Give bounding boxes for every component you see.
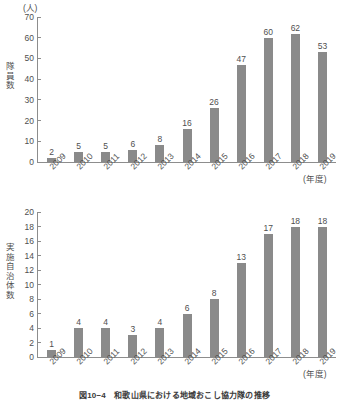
bar-value-label: 5	[76, 142, 81, 151]
bar-value-label: 3	[130, 325, 135, 334]
bar-value-label: 60	[264, 28, 273, 37]
bar-value-label: 53	[318, 42, 327, 51]
bar-value-label: 13	[236, 253, 245, 262]
bar: 18	[291, 227, 300, 358]
bar-value-label: 8	[212, 289, 217, 298]
plot-area: 0102030405060702200952010520116201282013…	[37, 17, 336, 163]
bar-value-label: 2	[49, 148, 54, 157]
bar: 18	[318, 227, 327, 358]
plot-area: 0246810121416182012009420104201132012420…	[37, 212, 336, 358]
bar: 53	[318, 52, 327, 162]
bar-value-label: 17	[264, 224, 273, 233]
bar: 60	[264, 38, 273, 162]
bar-value-label: 4	[103, 318, 108, 327]
bar-value-label: 18	[291, 217, 300, 226]
x-axis-unit-label: (年度)	[303, 367, 327, 379]
y-axis-title: 実施自治体数	[5, 243, 16, 301]
bar: 26	[210, 108, 219, 162]
figure-container: (人) 隊員数 01020304050607022009520105201162…	[0, 0, 349, 403]
bar: 47	[237, 65, 246, 162]
bar: 8	[210, 299, 219, 357]
x-axis-unit-label: (年度)	[303, 172, 327, 184]
bar-value-label: 8	[158, 135, 163, 144]
bar-value-label: 6	[130, 140, 135, 149]
bar-value-label: 62	[291, 24, 300, 33]
bar-value-label: 4	[76, 318, 81, 327]
bar: 17	[264, 234, 273, 357]
bar-value-label: 4	[158, 318, 163, 327]
bar-value-label: 5	[103, 142, 108, 151]
chart-taiin-su: (人) 隊員数 01020304050607022009520105201162…	[0, 0, 349, 196]
figure-caption: 図10−4 和歌山県における地域おこし協力隊の推移	[0, 390, 349, 401]
bar: 62	[291, 34, 300, 162]
bar: 13	[237, 263, 246, 357]
bar-value-label: 16	[182, 119, 191, 128]
bar-value-label: 26	[209, 98, 218, 107]
chart-jisshi-jichitai-su: 実施自治体数 024681012141618201200942010420113…	[0, 196, 349, 386]
bar-value-label: 1	[49, 340, 54, 349]
bar-value-label: 18	[318, 217, 327, 226]
bar-value-label: 47	[236, 55, 245, 64]
y-axis-title: 隊員数	[5, 62, 16, 91]
bar-value-label: 6	[185, 304, 190, 313]
